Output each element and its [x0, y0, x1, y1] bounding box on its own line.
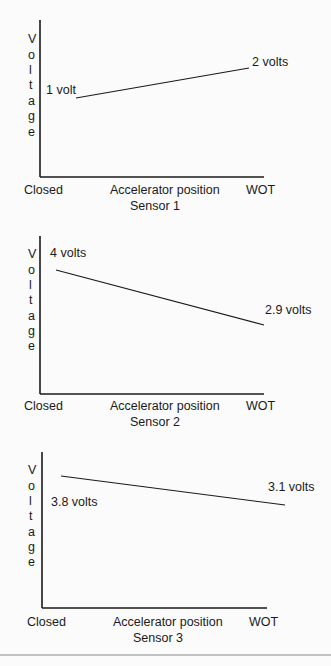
x-tick-closed: Closed — [27, 615, 66, 629]
svg-text:l: l — [29, 63, 32, 77]
svg-text:l: l — [29, 494, 32, 508]
start-value-label: 4 volts — [50, 246, 86, 260]
x-tick-wot: WOT — [249, 615, 279, 629]
end-value-label: 2 volts — [252, 55, 288, 69]
svg-text:t: t — [29, 509, 33, 523]
svg-text:o: o — [28, 479, 35, 493]
y-axis-label: V o l t a g e — [28, 32, 37, 139]
start-value-label: 3.8 volts — [51, 495, 98, 509]
svg-text:g: g — [28, 324, 35, 338]
svg-text:V: V — [28, 247, 37, 261]
svg-text:o: o — [28, 48, 35, 62]
svg-text:a: a — [28, 525, 35, 539]
sensor-charts: V o l t a g e 1 volt 2 volts Closed Acce… — [0, 0, 331, 666]
svg-text:g: g — [28, 109, 35, 123]
svg-text:V: V — [28, 32, 37, 46]
svg-text:g: g — [28, 540, 35, 554]
x-tick-closed: Closed — [24, 399, 63, 413]
svg-text:e: e — [28, 339, 35, 353]
chart-title: Sensor 1 — [130, 199, 180, 213]
chart-title: Sensor 3 — [133, 631, 183, 645]
chart-sensor-2: V o l t a g e 4 volts 2.9 volts Closed A… — [24, 236, 312, 429]
svg-text:l: l — [29, 278, 32, 292]
x-tick-closed: Closed — [24, 183, 63, 197]
end-value-label: 2.9 volts — [265, 303, 312, 317]
voltage-line — [76, 68, 249, 98]
svg-text:t: t — [29, 78, 33, 92]
x-tick-wot: WOT — [246, 399, 276, 413]
y-axis-label: V o l t a g e — [28, 463, 37, 569]
svg-text:o: o — [28, 263, 35, 277]
start-value-label: 1 volt — [46, 83, 76, 97]
svg-text:e: e — [28, 555, 35, 569]
chart-sensor-3: V o l t a g e 3.8 volts 3.1 volts Closed… — [27, 452, 315, 645]
svg-text:a: a — [28, 309, 35, 323]
voltage-line — [56, 270, 264, 325]
chart-sensor-1: V o l t a g e 1 volt 2 volts Closed Acce… — [24, 20, 288, 213]
svg-text:a: a — [28, 94, 35, 108]
chart-title: Sensor 2 — [130, 415, 180, 429]
svg-text:t: t — [29, 293, 33, 307]
x-axis-label: Accelerator position — [110, 183, 220, 197]
svg-text:e: e — [28, 125, 35, 139]
x-tick-wot: WOT — [246, 183, 276, 197]
end-value-label: 3.1 volts — [268, 480, 315, 494]
svg-text:V: V — [28, 463, 37, 477]
x-axis-label: Accelerator position — [110, 399, 220, 413]
x-axis-label: Accelerator position — [113, 615, 223, 629]
y-axis-label: V o l t a g e — [28, 247, 37, 353]
